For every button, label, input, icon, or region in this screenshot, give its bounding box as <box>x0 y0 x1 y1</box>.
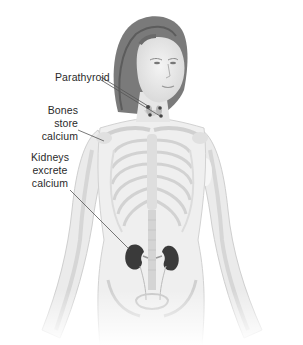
sternum-spine <box>147 134 157 290</box>
kidneys-label-line-1: Kidneys <box>28 151 72 164</box>
bones-store-calcium-label: Bones store calcium <box>22 104 78 143</box>
bones-label-line-2: calcium <box>22 130 78 143</box>
parathyroid-label-line-1: Parathyroid <box>55 71 110 83</box>
kidneys-label-line-2: excrete <box>28 164 72 177</box>
parathyroid-label: Parathyroid <box>55 71 110 84</box>
anatomy-figure: Parathyroid Bones store calcium Kidneys … <box>0 0 303 345</box>
kidneys-label-line-3: calcium <box>28 177 72 190</box>
bones-label-line-1: Bones store <box>22 104 78 130</box>
kidneys-excrete-calcium-label: Kidneys excrete calcium <box>28 151 72 190</box>
